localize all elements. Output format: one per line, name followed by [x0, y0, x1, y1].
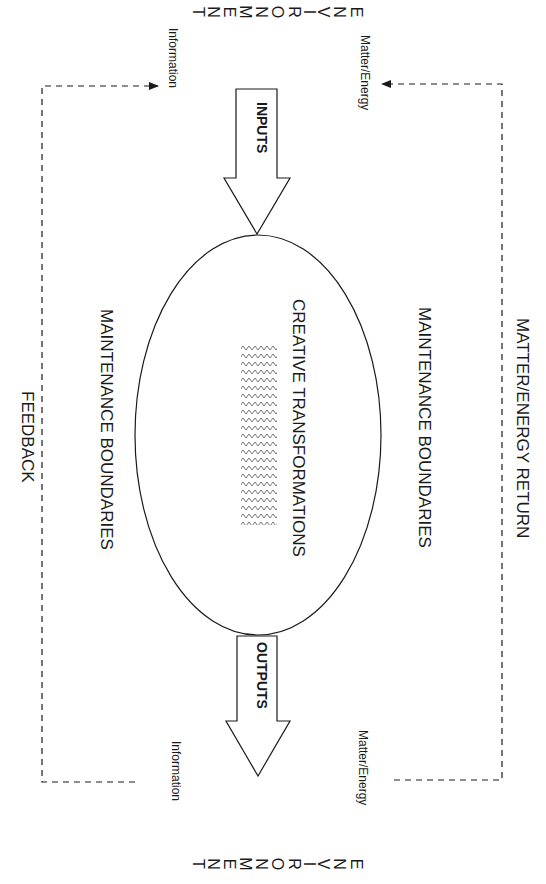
information-bottom-label: Information	[169, 741, 183, 801]
creative-transformations-label: CREATIVE TRANSFORMATIONS	[288, 299, 308, 557]
matter-energy-return-line	[382, 84, 502, 780]
outputs-label: OUTPUTS	[254, 642, 270, 709]
diagram-canvas	[0, 0, 546, 884]
matter-energy-return-label: MATTER/ENERGY RETURN	[512, 318, 532, 538]
feedback-label: FEEDBACK	[17, 391, 37, 483]
environment-label-bottom: T N E M N O R I V N E	[190, 856, 370, 876]
maintenance-boundaries-left-label: MAINTENANCE BOUNDARIES	[96, 309, 116, 550]
transformation-pattern	[241, 342, 277, 525]
environment-label-top: T N E M N O R I V N E	[190, 4, 370, 24]
maintenance-boundaries-right-label: MAINTENANCE BOUNDARIES	[414, 307, 434, 548]
inputs-label: INPUTS	[254, 102, 270, 153]
matter-energy-top-label: Matter/Energy	[358, 35, 372, 110]
information-top-label: Information	[166, 28, 180, 88]
matter-energy-bottom-label: Matter/Energy	[356, 730, 370, 805]
